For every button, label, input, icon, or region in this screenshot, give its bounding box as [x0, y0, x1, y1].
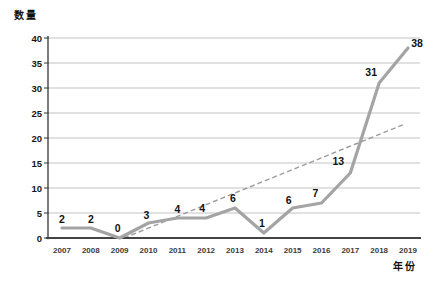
x-tick-label: 2009 [111, 246, 129, 255]
x-tick-label: 2010 [140, 246, 158, 255]
y-tick-label: 5 [37, 208, 43, 219]
data-point-label: 6 [286, 194, 292, 206]
x-tick-label: 2019 [399, 246, 417, 255]
data-point-label: 7 [313, 187, 319, 199]
y-tick-label: 20 [31, 133, 42, 144]
data-point-label: 4 [174, 203, 180, 215]
data-point-label: 2 [88, 213, 94, 225]
y-tick-label: 25 [31, 108, 42, 119]
y-tick-label: 35 [31, 58, 42, 69]
x-tick-label: 2015 [284, 246, 302, 255]
x-tick-label: 2012 [197, 246, 215, 255]
x-tick-label: 2013 [226, 246, 244, 255]
x-tick-label: 2008 [82, 246, 100, 255]
line-chart: 数量 0510152025303540200720082009201020112… [0, 0, 440, 286]
x-axis-title: 年份 [393, 258, 417, 273]
data-point-label: 13 [332, 155, 344, 167]
line-chart-plot: 0510152025303540200720082009201020112012… [0, 0, 440, 286]
data-point-label: 31 [365, 66, 377, 78]
data-point-label: 0 [115, 222, 121, 234]
x-tick-label: 2007 [53, 246, 71, 255]
data-point-label: 3 [144, 209, 150, 221]
y-tick-label: 10 [31, 183, 42, 194]
x-tick-label: 2017 [341, 246, 359, 255]
y-tick-label: 40 [31, 33, 42, 44]
data-point-label: 6 [230, 192, 236, 204]
y-axis-title: 数量 [14, 7, 38, 22]
data-point-label: 2 [59, 213, 65, 225]
y-tick-label: 0 [37, 233, 42, 244]
x-tick-label: 2018 [370, 246, 388, 255]
y-tick-label: 30 [31, 83, 42, 94]
data-point-label: 4 [199, 202, 205, 214]
y-tick-label: 15 [31, 158, 42, 169]
x-tick-label: 2011 [169, 246, 187, 255]
data-point-label: 1 [259, 217, 265, 229]
x-tick-label: 2016 [313, 246, 331, 255]
data-point-label: 38 [411, 37, 423, 49]
data-line [62, 48, 408, 238]
x-tick-label: 2014 [255, 246, 273, 255]
